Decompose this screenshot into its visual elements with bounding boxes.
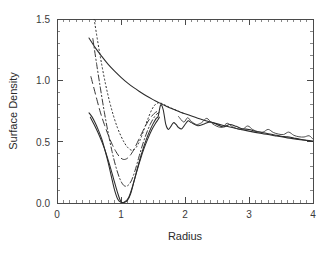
- tick-label: 1.0: [36, 75, 50, 86]
- tick-label: 2: [182, 209, 188, 220]
- tick-label: 4: [310, 209, 316, 220]
- tick-label: 1.5: [36, 14, 50, 25]
- x-axis-title: Radius: [168, 230, 203, 242]
- plot-canvas: 012340.00.51.01.5 Radius Surface Density: [0, 0, 329, 256]
- series-gap-profile-dash-dot: [93, 39, 160, 187]
- tick-label: 0.0: [36, 198, 50, 209]
- data-curves: [89, 19, 313, 203]
- tick-label: 0: [54, 209, 60, 220]
- series-gap-profile-dotted: [94, 19, 185, 150]
- series-gap-profile-second: [90, 117, 159, 203]
- plot-frame: [57, 19, 313, 203]
- axis-ticks: [57, 19, 313, 203]
- tick-label: 3: [246, 209, 252, 220]
- series-gap-profile-long-dashed: [91, 77, 159, 160]
- tick-label: 0.5: [36, 137, 50, 148]
- axis-tick-labels: 012340.00.51.01.5: [36, 14, 316, 220]
- series-unperturbed-profile: [89, 38, 313, 141]
- y-axis-title: Surface Density: [7, 72, 19, 150]
- chart-figure: 012340.00.51.01.5 Radius Surface Density: [0, 0, 329, 256]
- tick-label: 1: [118, 209, 124, 220]
- series-outer-wake-oscillation: [179, 117, 313, 140]
